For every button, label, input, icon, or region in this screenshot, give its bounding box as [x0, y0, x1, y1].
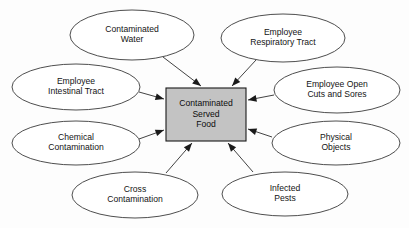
label-employee-intestinal-tract-line-2: Intestinal Tract	[48, 86, 104, 96]
label-cross-contamination-line-1: Cross	[124, 184, 146, 194]
node-contaminated-water[interactable]: ContaminatedWater	[70, 10, 194, 60]
node-employee-open-cuts-and-sores[interactable]: Employee OpenCuts and Sores	[274, 67, 400, 113]
label-infected-pests-line-2: Pests	[274, 193, 296, 203]
label-physical-objects-line-2: Objects	[321, 142, 350, 152]
label-employee-intestinal-tract-line-1: Employee	[57, 76, 95, 86]
label-chemical-contamination-line-1: Chemical	[58, 132, 94, 142]
node-physical-objects[interactable]: PhysicalObjects	[272, 121, 400, 165]
node-employee-intestinal-tract[interactable]: EmployeeIntestinal Tract	[12, 64, 140, 110]
center-node-layer: ContaminatedServedFood	[166, 88, 246, 141]
node-contaminated-served-food[interactable]: ContaminatedServedFood	[166, 88, 246, 141]
arrowhead-physical-objects	[248, 128, 257, 134]
label-infected-pests-line-1: Infected	[270, 183, 301, 193]
label-contaminated-served-food-line-3: Food	[196, 119, 216, 129]
label-contaminated-water-line-1: Contaminated	[105, 24, 159, 34]
cause-diagram: ContaminatedWaterEmployeeRespiratory Tra…	[0, 0, 409, 228]
arrowhead-chemical-contamination	[155, 130, 164, 136]
label-chemical-contamination-line-2: Contamination	[48, 142, 104, 152]
label-contaminated-served-food-line-2: Served	[192, 109, 219, 119]
label-contaminated-water-line-2: Water	[121, 34, 144, 44]
label-cross-contamination-line-2: Contamination	[107, 194, 163, 204]
label-physical-objects-line-1: Physical	[320, 132, 352, 142]
node-chemical-contamination[interactable]: ChemicalContamination	[12, 121, 140, 165]
diagram-canvas: ContaminatedWaterEmployeeRespiratory Tra…	[0, 0, 409, 228]
label-employee-respiratory-tract-line-2: Respiratory Tract	[250, 37, 316, 47]
label-employee-open-cuts-and-sores-line-2: Cuts and Sores	[307, 89, 366, 99]
arrowhead-employee-intestinal-tract	[155, 93, 164, 100]
node-employee-respiratory-tract[interactable]: EmployeeRespiratory Tract	[221, 14, 345, 62]
node-cross-contamination[interactable]: CrossContamination	[72, 172, 198, 218]
label-employee-open-cuts-and-sores-line-1: Employee Open	[306, 79, 368, 89]
arrowhead-employee-open-cuts-and-sores	[248, 95, 257, 102]
label-employee-respiratory-tract-line-1: Employee	[264, 27, 302, 37]
label-contaminated-served-food-line-1: Contaminated	[179, 98, 233, 108]
arrowhead-contaminated-water	[192, 78, 201, 86]
node-infected-pests[interactable]: InfectedPests	[222, 172, 348, 216]
